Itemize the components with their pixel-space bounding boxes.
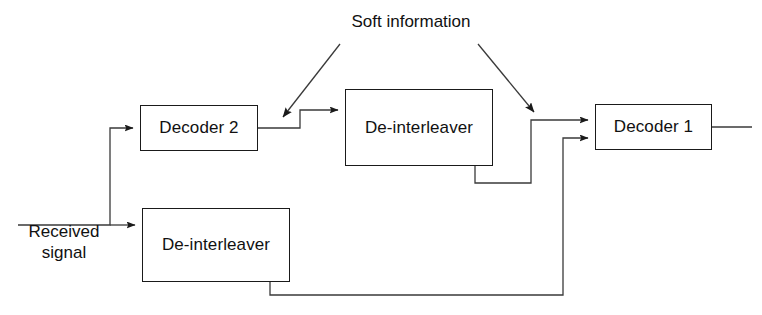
block-decoder-1: Decoder 1 <box>595 104 712 150</box>
received-signal-label-line-2: signal <box>4 243 124 264</box>
received-signal-label-line-1: Received <box>4 222 124 243</box>
block-de-interleaver-bottom: De-interleaver <box>142 208 290 282</box>
soft-information-label: Soft information <box>326 12 496 33</box>
block-decoder-2-label: Decoder 2 <box>159 118 238 138</box>
received-signal-label: Received signal <box>4 222 124 263</box>
turbo-decoder-diagram: Decoder 2 De-interleaver Decoder 1 De-in… <box>0 0 762 315</box>
block-de-interleaver-top-label: De-interleaver <box>365 118 473 138</box>
block-decoder-2: Decoder 2 <box>140 105 258 151</box>
annotation-arrow-left <box>283 44 340 117</box>
block-de-interleaver-top: De-interleaver <box>345 89 493 166</box>
block-de-interleaver-bottom-label: De-interleaver <box>162 235 270 255</box>
block-decoder-1-label: Decoder 1 <box>614 117 693 137</box>
edge-received-to-decoder2 <box>18 128 133 225</box>
edge-decoder2-to-deinterleaver-top <box>258 110 338 128</box>
